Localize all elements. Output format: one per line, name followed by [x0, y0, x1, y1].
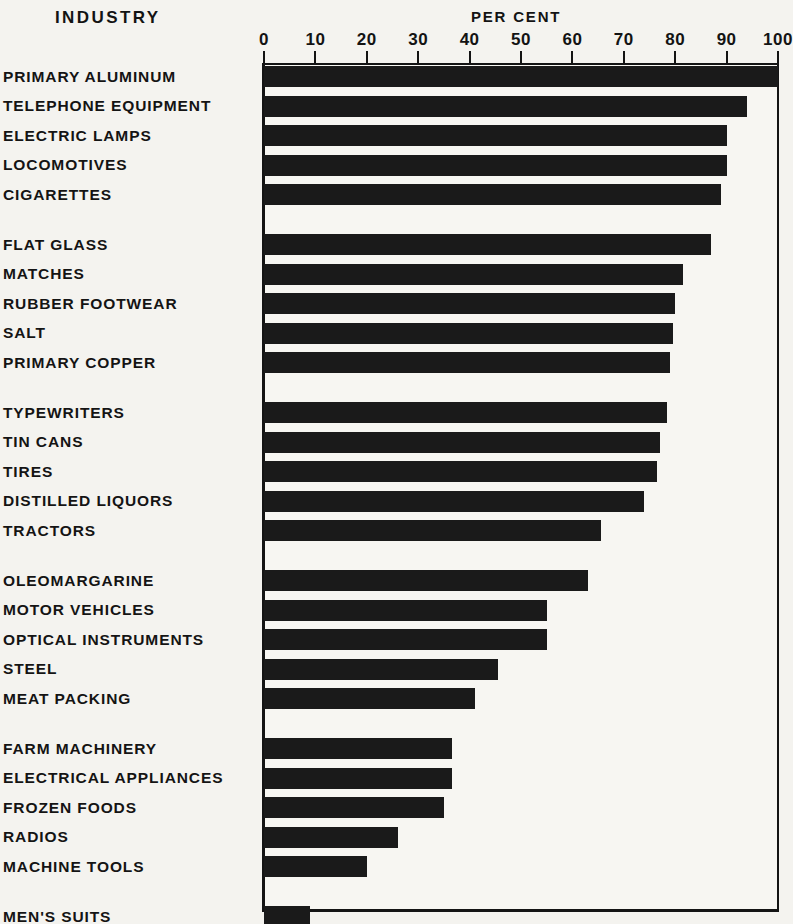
bar-category-label: PRIMARY ALUMINUM [3, 68, 176, 84]
x-axis-tick-label: 10 [305, 30, 325, 50]
bar-track [264, 293, 675, 314]
x-axis-tick-mark [520, 51, 522, 63]
bar-row: CIGARETTES [0, 184, 793, 205]
bar-category-label: MATCHES [3, 266, 85, 282]
bar-category-label: LOCOMOTIVES [3, 157, 127, 173]
bar-fill [264, 352, 670, 373]
bar-row: FROZEN FOODS [0, 797, 793, 818]
bar-fill [264, 738, 452, 759]
bar-fill [264, 264, 683, 285]
bar-fill [264, 323, 673, 344]
bar-track [264, 264, 683, 285]
bar-category-label: STEEL [3, 661, 57, 677]
bar-row: PRIMARY ALUMINUM [0, 66, 793, 87]
x-axis-tick-marks [0, 51, 793, 63]
x-axis-tick-label: 20 [357, 30, 377, 50]
bar-fill [264, 155, 727, 176]
bar-fill [264, 66, 778, 87]
bar-track [264, 402, 667, 423]
bar-track [264, 738, 452, 759]
bar-fill [264, 856, 367, 877]
bar-track [264, 520, 601, 541]
bar-category-label: RUBBER FOOTWEAR [3, 296, 178, 312]
bar-category-label: TELEPHONE EQUIPMENT [3, 98, 211, 114]
bar-category-label: MEAT PACKING [3, 691, 131, 707]
x-axis-tick-mark [366, 51, 368, 63]
bar-fill [264, 402, 667, 423]
bar-fill [264, 491, 644, 512]
bar-row: MATCHES [0, 264, 793, 285]
x-axis-tick-mark [726, 51, 728, 63]
x-axis-tick-label: 80 [665, 30, 685, 50]
bar-category-label: SALT [3, 325, 46, 341]
bar-fill [264, 96, 747, 117]
bar-row: TYPEWRITERS [0, 402, 793, 423]
bar-row: TELEPHONE EQUIPMENT [0, 96, 793, 117]
bar-row: SALT [0, 323, 793, 344]
x-axis-tick-label: 50 [511, 30, 531, 50]
bar-row: TIRES [0, 461, 793, 482]
bar-track [264, 432, 660, 453]
bar-track [264, 688, 475, 709]
bar-category-label: MEN'S SUITS [3, 908, 111, 924]
bar-category-label: FARM MACHINERY [3, 740, 157, 756]
bar-track [264, 600, 547, 621]
bar-row: DISTILLED LIQUORS [0, 491, 793, 512]
bar-track [264, 125, 727, 146]
bar-category-label: MOTOR VEHICLES [3, 602, 155, 618]
bar-row: RADIOS [0, 827, 793, 848]
bar-category-label: DISTILLED LIQUORS [3, 493, 173, 509]
bar-category-label: RADIOS [3, 829, 69, 845]
bar-fill [264, 600, 547, 621]
bar-fill [264, 520, 601, 541]
bar-category-label: ELECTRIC LAMPS [3, 128, 152, 144]
bar-track [264, 629, 547, 650]
bar-fill [264, 827, 398, 848]
x-axis-tick-mark [674, 51, 676, 63]
x-axis-tick-mark [469, 51, 471, 63]
bar-track [264, 184, 721, 205]
x-axis-tick-label: 100 [763, 30, 793, 50]
bar-track [264, 66, 778, 87]
x-axis-tick-mark [314, 51, 316, 63]
bar-track [264, 352, 670, 373]
bar-category-label: TIN CANS [3, 434, 83, 450]
bar-category-label: TYPEWRITERS [3, 404, 125, 420]
bar-row: OPTICAL INSTRUMENTS [0, 629, 793, 650]
x-axis-tick-label: 60 [562, 30, 582, 50]
x-axis-tick-label: 70 [614, 30, 634, 50]
bar-track [264, 856, 367, 877]
bar-row: TIN CANS [0, 432, 793, 453]
bar-row: RUBBER FOOTWEAR [0, 293, 793, 314]
x-axis-tick-mark [263, 51, 265, 63]
bar-fill [264, 184, 721, 205]
bar-fill [264, 125, 727, 146]
bar-row: MEN'S SUITS [0, 906, 793, 924]
bar-fill [264, 688, 475, 709]
bar-fill [264, 629, 547, 650]
x-axis-tick-mark [623, 51, 625, 63]
bar-row: STEEL [0, 659, 793, 680]
bar-category-label: MACHINE TOOLS [3, 859, 144, 875]
bar-track [264, 797, 444, 818]
bar-category-label: TIRES [3, 464, 53, 480]
x-axis-tick-label: 90 [717, 30, 737, 50]
x-axis-tick-labels: 0102030405060708090100 [0, 30, 793, 50]
bar-row: ELECTRIC LAMPS [0, 125, 793, 146]
bar-row: FLAT GLASS [0, 234, 793, 255]
bar-fill [264, 461, 657, 482]
bar-track [264, 491, 644, 512]
bar-track [264, 768, 452, 789]
bar-category-label: OLEOMARGARINE [3, 572, 154, 588]
bar-track [264, 155, 727, 176]
industry-column-heading: INDUSTRY [55, 8, 160, 28]
bar-track [264, 461, 657, 482]
bar-fill [264, 768, 452, 789]
x-axis-tick-mark [417, 51, 419, 63]
bar-row: LOCOMOTIVES [0, 155, 793, 176]
bar-category-label: FROZEN FOODS [3, 800, 137, 816]
bar-category-label: OPTICAL INSTRUMENTS [3, 632, 204, 648]
bar-row: MOTOR VEHICLES [0, 600, 793, 621]
bar-fill [264, 432, 660, 453]
bar-fill [264, 570, 588, 591]
